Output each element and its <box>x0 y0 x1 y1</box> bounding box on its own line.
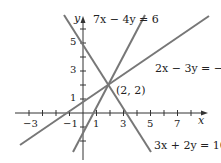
line-label-7x-4y: 7x − 4y = 6 <box>93 13 159 26</box>
x-tick-label: 5 <box>147 118 153 129</box>
line-2x-minus-3y-eq-neg2 <box>20 16 209 145</box>
line-label-2x-3y: 2x − 3y = −2 <box>155 62 221 75</box>
line-label-3x-2y: 3x + 2y = 10 <box>154 139 221 152</box>
x-axis-label: x <box>198 114 204 127</box>
y-axis-arrow-icon <box>81 16 86 23</box>
y-tick-label: 3 <box>70 64 76 75</box>
y-tick-label: 5 <box>70 36 76 47</box>
x-tick-label: 7 <box>174 118 180 129</box>
intersection-label: (2, 2) <box>116 84 146 97</box>
y-tick-label: 1 <box>70 92 76 103</box>
y-axis-label: y <box>74 12 80 25</box>
x-tick-label: 1 <box>93 118 99 129</box>
x-tick-label: −3 <box>23 118 38 129</box>
x-tick-label: 3 <box>120 118 126 129</box>
x-tick-label: −1 <box>63 118 78 129</box>
